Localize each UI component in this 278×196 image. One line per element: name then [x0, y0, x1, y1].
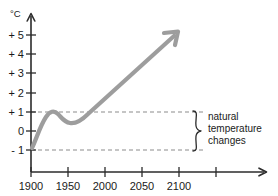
- x-axis: [31, 167, 267, 177]
- y-tick-label-0: 0: [18, 125, 24, 137]
- temperature-projection-chart: + 5 + 4 + 3 + 2 + 1 0 - 1 °C 1900 1950 2…: [0, 0, 278, 196]
- natural-range-brace: [193, 111, 201, 151]
- natural-temperature-changes-label: natural temperature changes: [208, 111, 262, 146]
- y-tick-label-1: + 1: [8, 106, 24, 118]
- x-tick-label-2000: 2000: [93, 180, 117, 192]
- annotation-line-1: natural: [208, 111, 239, 122]
- y-tick-label-3: + 3: [8, 67, 24, 79]
- y-tick-labels: + 5 + 4 + 3 + 2 + 1 0 - 1: [8, 29, 24, 156]
- guide-lines: [31, 112, 205, 150]
- x-tick-label-1900: 1900: [19, 180, 43, 192]
- annotation-line-3: changes: [208, 135, 246, 146]
- x-tick-label-2050: 2050: [130, 180, 154, 192]
- x-tick-label-1950: 1950: [56, 180, 80, 192]
- temperature-curve-line: [32, 36, 174, 148]
- y-tick-label-5: + 5: [8, 29, 24, 41]
- y-axis-unit-label: °C: [10, 8, 21, 19]
- x-tick-labels: 1900 1950 2000 2050 2100: [19, 180, 191, 192]
- curly-brace-icon: [193, 111, 201, 151]
- y-tick-label-minus-1: - 1: [11, 144, 24, 156]
- y-tick-label-2: + 2: [8, 87, 24, 99]
- y-tick-label-4: + 4: [8, 48, 24, 60]
- annotation-line-2: temperature: [208, 123, 262, 134]
- chart-canvas: + 5 + 4 + 3 + 2 + 1 0 - 1 °C 1900 1950 2…: [0, 0, 278, 196]
- temperature-trend-series: [32, 32, 178, 149]
- x-tick-label-2100: 2100: [167, 180, 191, 192]
